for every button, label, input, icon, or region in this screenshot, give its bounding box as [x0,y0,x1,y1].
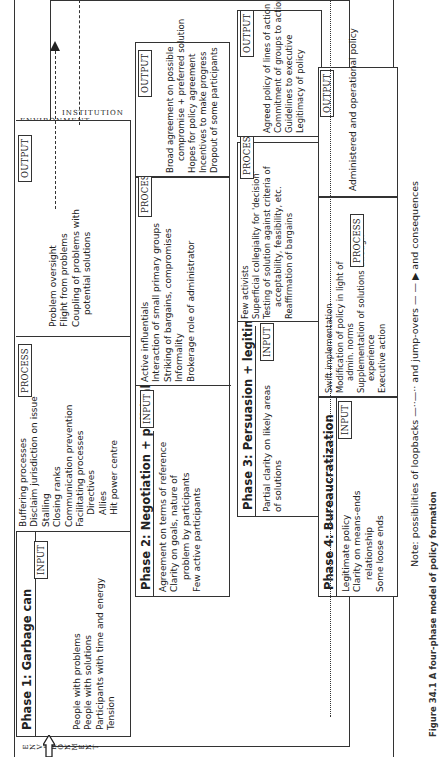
phase-4-output-list: Administered and operational policy [348,28,359,191]
phase-2-title: Phase 2: Negotiation + political [136,431,154,596]
phase-3-output-list: Agreed policy of lines of action Commitm… [262,0,306,133]
phase-1-output-list: Problem oversight Flight from problems C… [48,209,94,327]
phase-2-output-list: Broad agreement on possible compromise +… [165,19,220,173]
legend-note: Note: possibilities of loopbacks —··—·· … [409,181,420,567]
phase-4-output-tag: OUTPUT [320,70,334,117]
phase-1-divider [16,336,131,337]
phase-2-process-list: Active influentials Interaction of small… [140,223,197,382]
policy-phase-diagram: ENVIRONMENT ENVIRONMENT INSTITUTION Phas… [0,0,439,757]
phase-2-box: Phase 2: Negotiation + political Agreeme… [135,177,230,597]
phase-4-input-list: Legitimate policy Clarity on means-ends … [341,491,387,592]
entry-arrow-icon [40,735,52,757]
phase-4-process-tag: PROCESS [350,214,364,267]
phase-1-output-tag: OUTPUT [18,135,32,182]
phase-3-input-list: Partial clarity on likely areas of solut… [262,385,285,512]
phase-2-input-tag: INPUT [140,390,154,428]
phase-3-output-tag: OUTPUT [240,10,254,57]
phase-4-input-tag: INPUT [338,401,352,439]
jump-over-line-2 [79,0,80,125]
phase-1-process-tag: PROCESS [18,344,32,397]
phase-1-input-tag: INPUT [34,541,48,579]
phase-4-title: Phase 4: Bureaucratization [319,396,337,596]
figure-caption: Figure 34.1 A four-phase model of policy… [428,491,438,737]
phase-3-input-tag: INPUT [260,323,274,361]
phase-1-process-list: Buffering processes Disclaim jurisdictio… [18,396,121,527]
phase-2-input-divider [136,385,231,386]
environment-label-left: ENVIRONMENT [22,737,101,757]
phase-3-process-list: Few activists Superficial collegiality f… [240,166,295,319]
institution-label: INSTITUTION [62,17,126,117]
phase-2-input-list: Agreement on terms of reference Clarity … [158,442,204,592]
jump-over-arrow-1 [50,41,60,51]
loopback-line [330,0,331,717]
loopback-symbol: —··—·· [409,383,420,417]
phase-1-input-list: People with problems People with solutio… [72,578,118,730]
jump-over-line-1 [55,51,56,209]
phase-3-title: Phase 3: Persuasion + legitimation [238,326,256,516]
jump-over-symbol: — — ▶ [409,270,420,305]
phase-2-output-tag: OUTPUT [138,50,152,97]
